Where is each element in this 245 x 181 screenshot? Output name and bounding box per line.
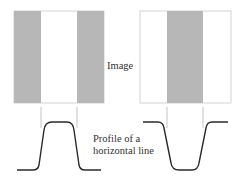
right-gray-stripe	[167, 11, 203, 103]
left-gray-stripe-2	[77, 11, 104, 103]
right-profile-curve	[143, 122, 228, 170]
image-label: Image	[107, 60, 133, 72]
guide-lines	[41, 107, 203, 128]
left-gray-stripe-1	[14, 11, 41, 103]
profile-label-line2: horizontal line	[93, 145, 154, 157]
left-profile-curve	[17, 122, 101, 170]
profile-label-line1: Profile of a	[93, 133, 140, 145]
right-image-panel	[140, 11, 231, 103]
left-image-panel	[14, 11, 104, 103]
